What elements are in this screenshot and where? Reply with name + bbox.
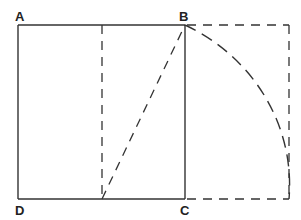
label-b: B bbox=[179, 9, 188, 24]
label-a: A bbox=[15, 9, 25, 24]
label-d: D bbox=[15, 203, 24, 218]
golden-rectangle-diagram: A B C D bbox=[0, 0, 301, 220]
dashed-diagonal bbox=[102, 25, 185, 199]
label-c: C bbox=[180, 203, 190, 218]
extension-rectangle bbox=[187, 25, 289, 199]
dashed-arc bbox=[185, 25, 290, 199]
